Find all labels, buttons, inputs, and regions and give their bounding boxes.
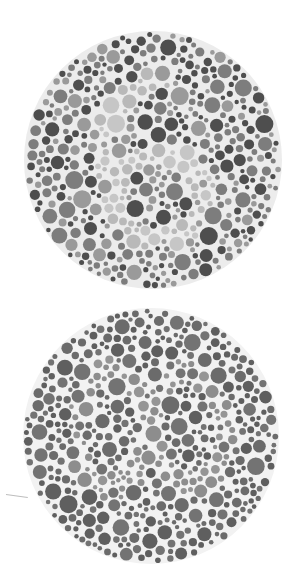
color-plate-bottom	[0, 0, 303, 584]
dot-pattern-bottom	[0, 0, 303, 584]
